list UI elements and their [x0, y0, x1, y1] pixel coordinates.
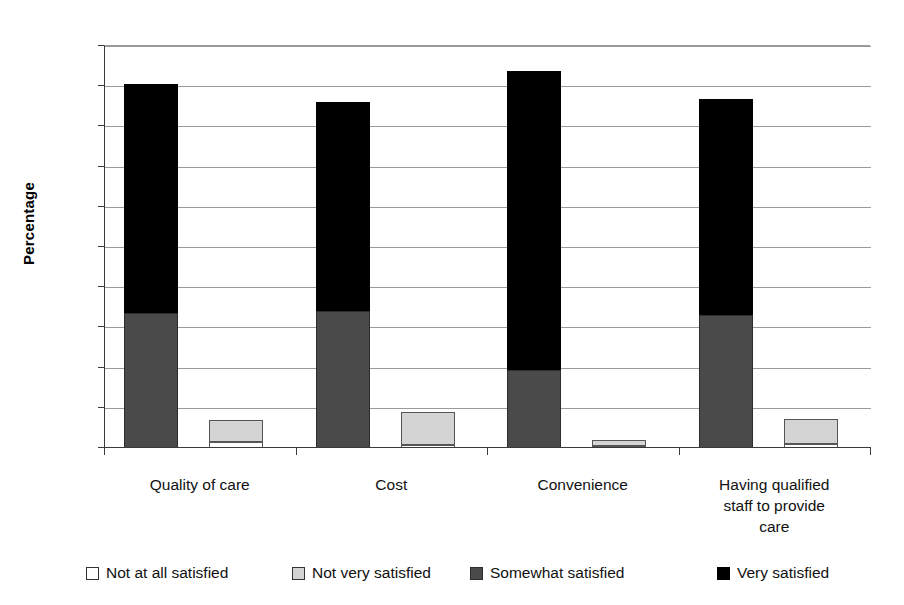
bar-satisfied-3: [699, 99, 753, 448]
plot-area: [104, 45, 870, 447]
satisfaction-bar-chart: Percentage 0102030405060708090100 Qualit…: [0, 0, 904, 605]
y-axis-title: Percentage: [20, 134, 37, 314]
dark-gray-square-icon: [470, 567, 483, 580]
x-tick-4: [870, 447, 871, 455]
legend-label: Not very satisfied: [312, 563, 431, 583]
x-tick-3: [679, 447, 680, 455]
legend-item-not-very-satisfied[interactable]: Not very satisfied: [292, 563, 431, 583]
legend-item-somewhat-satisfied[interactable]: Somewhat satisfied: [470, 563, 624, 583]
bar-dissatisfied-1: [401, 412, 455, 448]
white-square-icon: [86, 567, 99, 580]
chart-legend: Not at all satisfiedNot very satisfiedSo…: [0, 563, 904, 589]
x-axis-label-line: Having qualified: [669, 474, 881, 495]
bar-satisfied-0: [124, 84, 178, 448]
chart-title: [0, 0, 904, 2]
x-axis-label-3: Having qualifiedstaff to providecare: [669, 474, 881, 537]
x-tick-2: [487, 447, 488, 455]
bar-satisfied-2: [507, 71, 561, 448]
x-axis-label-line: staff to provide: [669, 495, 881, 516]
x-axis-label-2: Convenience: [477, 474, 689, 495]
bar-segment-very-satisfied-1: [316, 102, 370, 311]
gridline-50: [105, 247, 871, 248]
bar-segment-somewhat-satisfied-3: [699, 315, 753, 448]
gridline-90: [105, 86, 871, 87]
bar-segment-not-very-satisfied-2: [592, 440, 646, 446]
gridline-100: [105, 46, 871, 47]
x-axis-label-line: Quality of care: [94, 474, 306, 495]
bar-segment-somewhat-satisfied-0: [124, 313, 178, 448]
x-axis-label-0: Quality of care: [94, 474, 306, 495]
bar-segment-somewhat-satisfied-2: [507, 370, 561, 448]
gridline-30: [105, 327, 871, 328]
legend-label: Not at all satisfied: [106, 563, 228, 583]
light-gray-square-icon: [292, 567, 305, 580]
bar-segment-very-satisfied-0: [124, 84, 178, 313]
bar-segment-not-very-satisfied-1: [401, 412, 455, 445]
bar-dissatisfied-0: [209, 420, 263, 448]
x-axis-label-1: Cost: [286, 474, 498, 495]
gridline-60: [105, 207, 871, 208]
gridline-20: [105, 368, 871, 369]
bar-dissatisfied-3: [784, 419, 838, 448]
legend-item-not-at-all-satisfied[interactable]: Not at all satisfied: [86, 563, 228, 583]
legend-item-very-satisfied[interactable]: Very satisfied: [717, 563, 829, 583]
legend-label: Somewhat satisfied: [490, 563, 624, 583]
gridline-70: [105, 167, 871, 168]
legend-label: Very satisfied: [737, 563, 829, 583]
gridline-40: [105, 287, 871, 288]
bar-segment-not-very-satisfied-3: [784, 419, 838, 444]
bar-segment-somewhat-satisfied-1: [316, 311, 370, 448]
x-axis-label-line: care: [669, 516, 881, 537]
bar-segment-not-very-satisfied-0: [209, 420, 263, 442]
bar-segment-very-satisfied-2: [507, 71, 561, 370]
gridline-80: [105, 126, 871, 127]
gridline-10: [105, 408, 871, 409]
bar-satisfied-1: [316, 102, 370, 448]
x-axis-label-line: Cost: [286, 474, 498, 495]
x-tick-1: [296, 447, 297, 455]
x-axis-label-line: Convenience: [477, 474, 689, 495]
bar-segment-very-satisfied-3: [699, 99, 753, 315]
x-tick-0: [104, 447, 105, 455]
black-square-icon: [717, 567, 730, 580]
